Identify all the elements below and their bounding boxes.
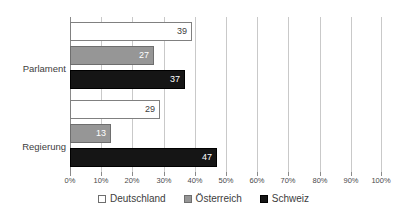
tick-label-0: 0% — [65, 176, 76, 185]
white-square-icon — [98, 195, 106, 203]
category-label-parlament: Parlament — [2, 63, 66, 74]
x-axis-labels: 0% 10% 20% 30% 40% 50% 60% 70% 80% 90% 1… — [70, 176, 382, 188]
bars-layer: 39 27 37 29 13 47 — [70, 17, 382, 172]
tick-label-100: 100% — [371, 176, 390, 185]
gray-square-icon — [184, 195, 192, 203]
bar-value-label: 37 — [170, 75, 184, 84]
plot-area: 39 27 37 29 13 47 — [70, 17, 382, 172]
legend-label-schweiz: Schweiz — [272, 193, 309, 204]
tick-label-50: 50% — [218, 176, 233, 185]
legend-item-schweiz[interactable]: Schweiz — [260, 193, 309, 204]
black-square-icon — [260, 195, 268, 203]
bar-parlament-deutschland: 39 — [70, 22, 192, 41]
tick-label-90: 90% — [343, 176, 358, 185]
bar-parlament-oesterreich: 27 — [70, 46, 154, 65]
bar-value-label: 39 — [177, 27, 191, 36]
legend-item-oesterreich[interactable]: Österreich — [184, 193, 242, 204]
bar-regierung-schweiz: 47 — [70, 148, 217, 167]
legend-label-oesterreich: Österreich — [196, 193, 242, 204]
legend-label-deutschland: Deutschland — [110, 193, 166, 204]
category-label-regierung: Regierung — [2, 141, 66, 152]
bar-parlament-schweiz: 37 — [70, 70, 185, 89]
bar-regierung-deutschland: 29 — [70, 100, 160, 119]
tick-label-30: 30% — [156, 176, 171, 185]
bar-chart: Parlament Regierung 39 27 — [0, 0, 407, 215]
bar-value-label: 13 — [96, 129, 110, 138]
bar-value-label: 47 — [202, 153, 216, 162]
tick-label-20: 20% — [124, 176, 139, 185]
tick-label-60: 60% — [249, 176, 264, 185]
legend-item-deutschland[interactable]: Deutschland — [98, 193, 166, 204]
bar-regierung-oesterreich: 13 — [70, 124, 111, 143]
tick-label-70: 70% — [280, 176, 295, 185]
tick-label-40: 40% — [187, 176, 202, 185]
bar-value-label: 29 — [145, 105, 159, 114]
category-axis: Parlament Regierung — [0, 17, 66, 172]
tick-label-80: 80% — [312, 176, 327, 185]
legend: Deutschland Österreich Schweiz — [0, 193, 407, 204]
tick-label-10: 10% — [93, 176, 108, 185]
bar-value-label: 27 — [139, 51, 153, 60]
